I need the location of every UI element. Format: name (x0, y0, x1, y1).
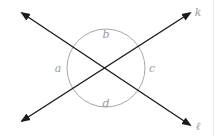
angle-label-d: d (102, 97, 109, 110)
angle-label-b: b (102, 28, 109, 41)
angle-label-a: a (55, 62, 62, 75)
angle-label-c: c (149, 62, 155, 75)
frame-edge (213, 0, 214, 136)
line-label-l: ℓ (196, 120, 201, 133)
line-label-k: k (195, 6, 202, 19)
intersecting-lines-diagram: b a c d k ℓ (0, 0, 216, 136)
